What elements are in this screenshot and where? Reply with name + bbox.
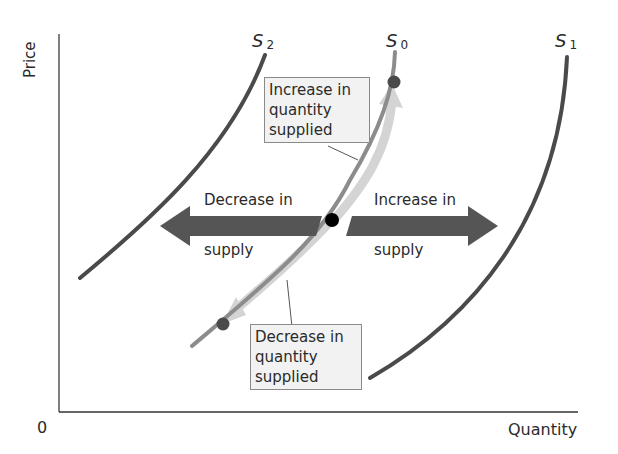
lower-point (217, 318, 230, 331)
y-axis-label: Price (20, 41, 40, 78)
decrease-supply-label-line2: supply (204, 240, 253, 260)
x-axis-label: Quantity (508, 420, 577, 440)
increase-supply-label-line2: supply (374, 240, 423, 260)
s2-subscript: 2 (266, 38, 274, 52)
s1-letter: S (555, 30, 566, 51)
decrease-quantity-supplied-box: Decrease in quantity supplied (250, 324, 362, 390)
decrease-supply-label-line1: Decrease in (204, 190, 293, 210)
leader-line-increase (328, 146, 358, 160)
increase-supply-label-line1: Increase in (374, 190, 456, 210)
increase-quantity-supplied-box: Increase in quantity supplied (264, 77, 370, 143)
equilibrium-point (325, 213, 339, 227)
box-line: Increase in (269, 80, 365, 100)
box-line: quantity (255, 347, 357, 367)
supply-shift-diagram: Price 0 Quantity S2 S0 S1 Increase in qu… (0, 0, 618, 454)
s1-subscript: 1 (569, 38, 577, 52)
s1-label: S1 (555, 30, 577, 52)
s0-subscript: 0 (400, 38, 408, 52)
origin-label: 0 (37, 418, 47, 438)
s2-label: S2 (252, 30, 274, 52)
box-line: supplied (269, 120, 365, 140)
box-line: supplied (255, 367, 357, 387)
s2-letter: S (252, 30, 263, 51)
leader-line-decrease (287, 280, 292, 327)
box-line: quantity (269, 100, 365, 120)
s0-label: S0 (386, 30, 408, 52)
box-line: Decrease in (255, 327, 357, 347)
s0-letter: S (386, 30, 397, 51)
upper-point (388, 76, 401, 89)
